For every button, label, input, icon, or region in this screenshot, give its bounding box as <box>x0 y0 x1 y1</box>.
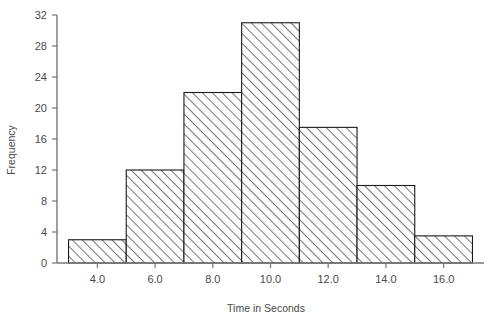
histogram-bar <box>126 170 184 263</box>
x-tick-label: 6.0 <box>147 273 162 285</box>
y-tick-label: 12 <box>35 164 47 176</box>
bar-fill <box>126 170 184 263</box>
histogram-chart: 048121620242832 4.06.08.010.012.014.016.… <box>0 0 496 323</box>
histogram-bar <box>357 186 415 264</box>
y-tick-label: 0 <box>41 257 47 269</box>
x-tick-label: 8.0 <box>205 273 220 285</box>
bar-fill <box>415 236 473 263</box>
bar-fill <box>69 240 127 263</box>
y-tick-label: 4 <box>41 226 47 238</box>
plot-area <box>69 23 473 263</box>
x-tick-label: 14.0 <box>375 273 396 285</box>
bar-fill <box>242 23 300 263</box>
x-tick-label: 16.0 <box>433 273 454 285</box>
y-tick-label: 8 <box>41 195 47 207</box>
chart-canvas: 048121620242832 4.06.08.010.012.014.016.… <box>0 0 496 323</box>
x-tick-label: 10.0 <box>260 273 281 285</box>
y-axis-title: Frequency <box>5 124 17 174</box>
bar-fill <box>357 186 415 264</box>
histogram-bar <box>415 236 473 263</box>
histogram-bar <box>242 23 300 263</box>
x-axis: 4.06.08.010.012.014.016.0 <box>57 263 484 285</box>
y-axis: 048121620242832 <box>35 9 57 269</box>
histogram-bar <box>184 93 242 264</box>
histogram-bar <box>69 240 127 263</box>
y-tick-label: 28 <box>35 40 47 52</box>
y-tick-label: 20 <box>35 102 47 114</box>
y-tick-label: 32 <box>35 9 47 21</box>
y-tick-label: 16 <box>35 133 47 145</box>
x-tick-label: 4.0 <box>90 273 105 285</box>
bar-fill <box>299 127 357 263</box>
x-tick-label: 12.0 <box>317 273 338 285</box>
x-axis-title: Time in Seconds <box>227 302 305 314</box>
bar-fill <box>184 93 242 264</box>
y-tick-label: 24 <box>35 71 47 83</box>
histogram-bar <box>299 127 357 263</box>
